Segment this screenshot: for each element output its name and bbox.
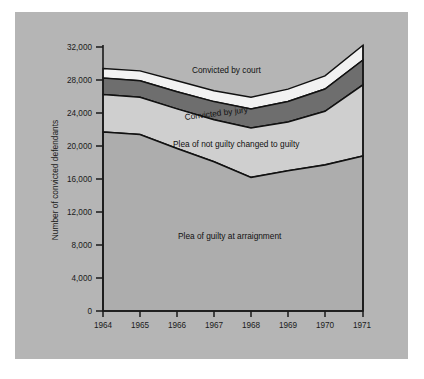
x-tick-label-1964: 1964 — [94, 321, 113, 330]
band-label-plea-guilty-arraignment: Plea of guilty at arraignment — [178, 231, 282, 241]
y-tick-label-32000: 32,000 — [67, 43, 92, 52]
y-tick-label-12000: 12,000 — [67, 208, 92, 217]
x-tick-label-1966: 1966 — [168, 321, 187, 330]
y-tick-label-28000: 28,000 — [67, 76, 92, 85]
y-tick-label-24000: 24,000 — [67, 109, 92, 118]
x-tick-label-1965: 1965 — [131, 321, 150, 330]
x-tick-label-1969: 1969 — [279, 321, 298, 330]
area-chart-svg: 0 4,000 8,000 12,000 16,000 20,000 24,00… — [0, 0, 424, 379]
x-tick-label-1967: 1967 — [205, 321, 224, 330]
x-axis-ticks — [103, 311, 363, 317]
y-tick-label-0: 0 — [87, 307, 92, 316]
chart-figure: 0 4,000 8,000 12,000 16,000 20,000 24,00… — [0, 0, 424, 379]
x-tick-label-1970: 1970 — [316, 321, 335, 330]
y-tick-label-16000: 16,000 — [67, 175, 92, 184]
x-tick-label-1971: 1971 — [353, 321, 372, 330]
screenshot-root: 0 4,000 8,000 12,000 16,000 20,000 24,00… — [0, 0, 424, 379]
band-label-convicted-by-court: Convicted by court — [192, 65, 261, 75]
y-axis-ticks — [96, 47, 103, 311]
y-tick-label-4000: 4,000 — [72, 274, 93, 283]
y-tick-label-20000: 20,000 — [67, 142, 92, 151]
y-tick-label-8000: 8,000 — [72, 241, 93, 250]
y-axis-title: Number of convicted defendants — [50, 120, 60, 241]
x-tick-label-1968: 1968 — [242, 321, 261, 330]
band-label-plea-not-guilty-changed: Plea of not guilty changed to guilty — [173, 139, 300, 149]
